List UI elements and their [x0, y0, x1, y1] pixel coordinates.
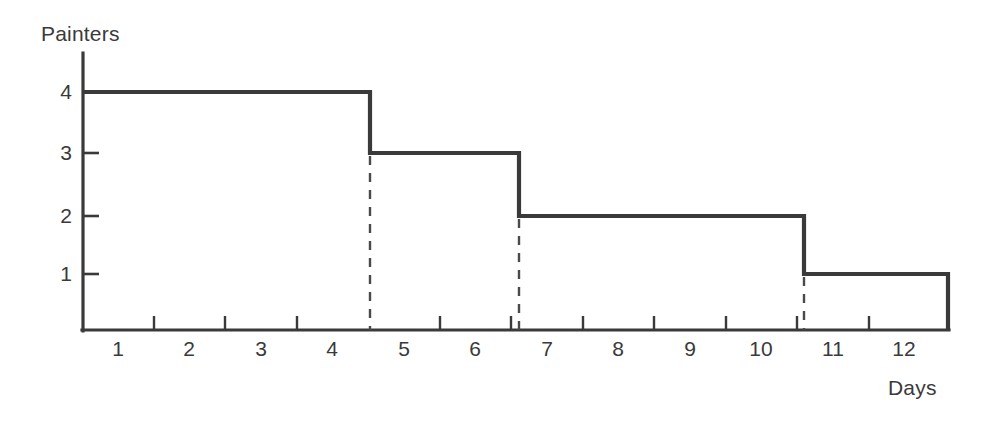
x-tick-label-9: 9 — [684, 337, 696, 361]
x-tick-label-11: 11 — [822, 337, 844, 361]
y-tick-label-2: 2 — [60, 204, 72, 228]
y-tick-label-1: 1 — [60, 262, 72, 286]
y-tick-label-3: 3 — [60, 141, 72, 165]
x-tick-label-10: 10 — [749, 337, 772, 361]
y-axis-title: Painters — [41, 22, 120, 46]
x-tick-label-3: 3 — [255, 337, 267, 361]
x-tick-label-4: 4 — [326, 337, 338, 361]
x-axis-title: Days — [888, 376, 937, 400]
x-axis-ticks — [154, 316, 869, 330]
step-chart-figure: Painters Days 4 3 2 1 1 2 3 4 5 6 7 8 9 … — [0, 0, 990, 434]
x-tick-label-7: 7 — [541, 337, 553, 361]
chart-plot-area — [0, 0, 990, 434]
x-tick-label-5: 5 — [398, 337, 410, 361]
x-tick-label-1: 1 — [112, 337, 124, 361]
step-function-line — [83, 92, 948, 330]
x-tick-label-8: 8 — [612, 337, 624, 361]
x-tick-label-12: 12 — [892, 337, 915, 361]
x-tick-label-2: 2 — [183, 337, 195, 361]
y-axis-ticks — [83, 153, 99, 274]
step-droplines — [370, 156, 804, 330]
y-tick-label-4: 4 — [60, 80, 72, 104]
x-tick-label-6: 6 — [469, 337, 481, 361]
